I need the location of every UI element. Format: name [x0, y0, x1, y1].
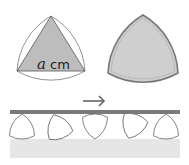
- side-unit: cm: [46, 57, 70, 72]
- rolling-demo: [9, 96, 180, 158]
- right-reuleaux-figure: [108, 15, 178, 82]
- ground: [10, 139, 180, 158]
- roller-1: [9, 114, 34, 139]
- roller-4: [117, 110, 149, 142]
- roller-2: [42, 110, 74, 142]
- diagram-canvas: [0, 0, 189, 165]
- roller-5: [153, 114, 178, 139]
- roller-3: [82, 114, 107, 139]
- side-variable: a: [37, 55, 46, 73]
- filled-reuleaux-triangle: [108, 15, 178, 82]
- direction-arrow-icon: [83, 96, 104, 106]
- side-length-label: a cm: [37, 55, 70, 73]
- moving-board: [10, 110, 180, 114]
